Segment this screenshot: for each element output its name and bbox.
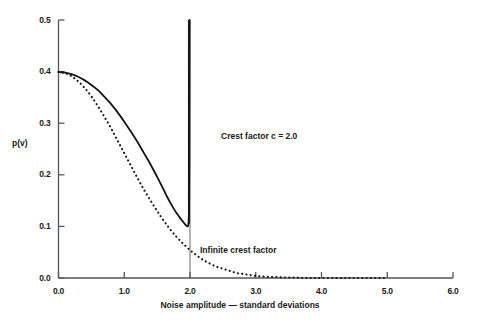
infinite-crest-annotation: Infinite crest factor	[200, 245, 277, 255]
y-axis-title: p(v)	[12, 138, 28, 148]
y-tick-label-1: 0.1	[15, 221, 51, 231]
chart-figure: p(v) Noise amplitude — standard deviatio…	[0, 0, 480, 328]
x-tick-label-6: 6.0	[428, 286, 478, 296]
x-axis-title: Noise amplitude — standard deviations	[0, 300, 480, 310]
x-tick-label-1: 1.0	[99, 286, 149, 296]
tick-marks-group	[59, 20, 454, 278]
y-tick-label-0: 0.0	[15, 273, 51, 283]
plot-canvas	[0, 0, 480, 328]
axis-group	[59, 20, 454, 278]
y-tick-label-2: 0.2	[15, 169, 51, 179]
y-tick-label-4: 0.4	[15, 66, 51, 76]
y-tick-label-3: 0.3	[15, 118, 51, 128]
x-tick-label-3: 3.0	[231, 286, 281, 296]
y-tick-label-5: 0.5	[15, 15, 51, 25]
series-1-path	[59, 20, 190, 226]
data-series-group	[59, 20, 388, 278]
x-tick-label-0: 0.0	[34, 286, 84, 296]
x-tick-label-2: 2.0	[165, 286, 215, 296]
x-tick-label-4: 4.0	[297, 286, 347, 296]
x-tick-label-5: 5.0	[362, 286, 412, 296]
crest-factor-annotation: Crest factor c = 2.0	[221, 131, 297, 141]
